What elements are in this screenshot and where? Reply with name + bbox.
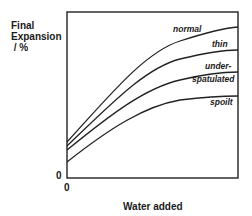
curve-label-spoilt: spoilt: [210, 97, 234, 107]
curve-label-thin: thin: [212, 39, 228, 49]
curve-label-under: under-: [205, 61, 232, 71]
curve-label-spatulated: spatulated: [192, 74, 235, 84]
x-axis-zero-tick: 0: [64, 182, 70, 193]
y-axis-zero-tick: 0: [56, 170, 62, 181]
chart-plot: normal thin under- spatulated spoilt: [0, 0, 252, 216]
x-axis-label: Water added: [123, 201, 183, 212]
curve-label-normal: normal: [173, 24, 202, 34]
plot-frame: [67, 12, 238, 178]
